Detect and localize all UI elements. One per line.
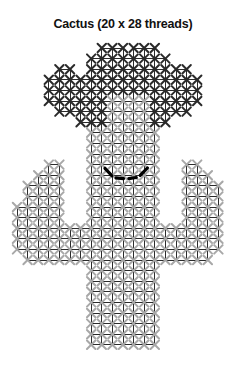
backstitch-segment [116,178,123,179]
cross-stitch-pattern-chart [0,36,246,368]
page-title: Cactus (20 x 28 threads) [0,17,246,31]
backstitch-segment [129,178,136,179]
pattern-grid [0,36,246,368]
